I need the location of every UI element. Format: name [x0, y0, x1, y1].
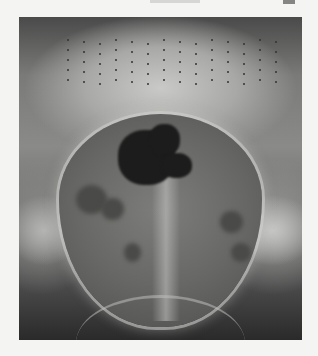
marker-dot: [179, 41, 181, 43]
marker-dot: [67, 59, 69, 61]
marker-dot: [67, 69, 69, 71]
marker-dot: [243, 43, 245, 45]
marker-dot: [83, 81, 85, 83]
marker-dot: [259, 59, 261, 61]
marker-dot: [211, 69, 213, 71]
marker-dot: [163, 69, 165, 71]
marker-dot: [195, 83, 197, 85]
marker-dot: [195, 63, 197, 65]
marker-dot: [227, 81, 229, 83]
marker-dot: [227, 71, 229, 73]
marker-dot: [67, 49, 69, 51]
marker-dot: [275, 71, 277, 73]
marker-dot: [227, 61, 229, 63]
marker-dot: [227, 41, 229, 43]
marker-dot: [147, 73, 149, 75]
marker-dot: [211, 39, 213, 41]
marker-dot: [99, 73, 101, 75]
marker-dot: [259, 39, 261, 41]
radiograph-image: [19, 17, 302, 340]
marker-dot: [67, 39, 69, 41]
marker-dot: [179, 71, 181, 73]
marker-dot: [131, 81, 133, 83]
marker-dot: [163, 59, 165, 61]
marker-dot: [131, 51, 133, 53]
marker-dot: [211, 59, 213, 61]
shadow-blob: [101, 198, 124, 221]
page-number-fragment: [283, 0, 295, 4]
marker-dot: [115, 59, 117, 61]
shadow-blob: [124, 243, 141, 262]
marker-dot: [131, 61, 133, 63]
marker-dot: [243, 53, 245, 55]
marker-dot: [275, 51, 277, 53]
marker-dot: [99, 83, 101, 85]
marker-dot: [259, 49, 261, 51]
gas-shadow: [149, 124, 180, 156]
marker-dot: [211, 49, 213, 51]
marker-dot: [147, 43, 149, 45]
marker-dot: [275, 81, 277, 83]
marker-dot: [115, 69, 117, 71]
marker-dot: [67, 79, 69, 81]
cropped-header-text: [150, 0, 200, 3]
marker-dot: [275, 61, 277, 63]
marker-dot: [83, 51, 85, 53]
marker-dot: [147, 83, 149, 85]
gas-shadow: [161, 153, 192, 179]
marker-dot: [163, 39, 165, 41]
marker-dot: [163, 79, 165, 81]
marker-dot: [99, 43, 101, 45]
marker-dot: [131, 41, 133, 43]
shadow-blob: [220, 211, 243, 234]
marker-dot: [179, 51, 181, 53]
marker-dot: [147, 63, 149, 65]
marker-dot: [83, 41, 85, 43]
marker-dot: [227, 51, 229, 53]
marker-dot: [163, 49, 165, 51]
marker-dot: [115, 79, 117, 81]
marker-dot: [259, 69, 261, 71]
marker-dot: [195, 73, 197, 75]
marker-dot: [259, 79, 261, 81]
marker-dot: [195, 53, 197, 55]
marker-dot: [99, 63, 101, 65]
marker-dot: [115, 49, 117, 51]
marker-dot: [115, 39, 117, 41]
marker-dot: [179, 81, 181, 83]
marker-dot: [131, 71, 133, 73]
marker-dot: [243, 73, 245, 75]
marker-dot: [147, 53, 149, 55]
marker-dot: [195, 43, 197, 45]
marker-dot: [275, 41, 277, 43]
marker-dot: [211, 79, 213, 81]
marker-dot: [99, 53, 101, 55]
marker-dot: [243, 63, 245, 65]
marker-dot: [83, 61, 85, 63]
marker-dot: [243, 83, 245, 85]
marker-dot: [179, 61, 181, 63]
marker-dot: [83, 71, 85, 73]
